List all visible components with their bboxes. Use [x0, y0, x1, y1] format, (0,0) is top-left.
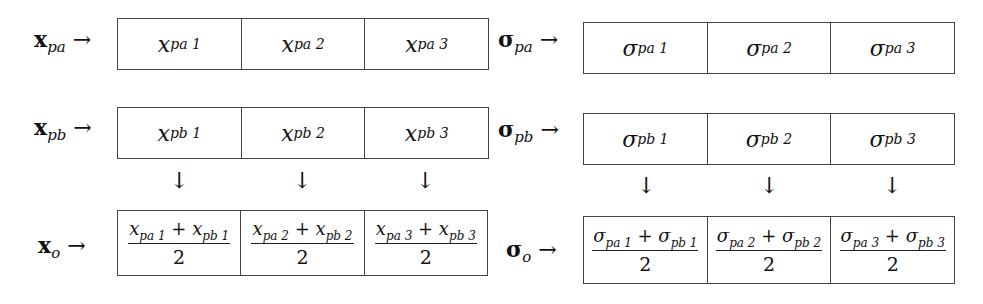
down-arrow-icon: ↓: [637, 173, 655, 198]
cell-x-pb-2: xpb 2: [242, 108, 366, 158]
cell-sigma-pb-2: σpb 2: [708, 114, 832, 164]
cell-sigma-o-3: σpa 3 + σpb 32: [831, 217, 954, 283]
down-arrow-icon: ↓: [883, 173, 901, 198]
down-arrow-icon: ↓: [760, 173, 778, 198]
cell-x-o-2: xpa 2 + xpb 22: [241, 211, 364, 275]
cell-sigma-pa-3: σpa 3: [831, 23, 954, 73]
down-arrow-icon: ↓: [170, 168, 188, 193]
cell-x-pb-1: xpb 1: [118, 108, 242, 158]
cell-sigma-pa-1: σpa 1: [584, 23, 708, 73]
cell-x-o-3: xpa 3 + xpb 32: [365, 211, 487, 275]
label-sigma-pa: σpa →: [498, 26, 558, 56]
cell-sigma-o-1: σpa 1 + σpb 12: [584, 217, 708, 283]
cell-x-o-1: xpa 1 + xpb 12: [118, 211, 241, 275]
cell-x-pa-1: xpa 1: [118, 19, 242, 69]
label-x-o: xo →: [38, 232, 86, 262]
row-sigma-o: σpa 1 + σpb 12 σpa 2 + σpb 22 σpa 3 + σp…: [583, 216, 955, 284]
down-arrow-icon: ↓: [416, 168, 434, 193]
label-sigma-o: σo →: [506, 236, 557, 266]
cell-sigma-pb-3: σpb 3: [831, 114, 954, 164]
row-sigma-pa: σpa 1 σpa 2 σpa 3: [583, 22, 955, 74]
row-x-o: xpa 1 + xpb 12 xpa 2 + xpb 22 xpa 3 + xp…: [117, 210, 488, 276]
row-x-pa: xpa 1 xpa 2 xpa 3: [117, 18, 489, 70]
down-arrow-icon: ↓: [293, 168, 311, 193]
cell-sigma-o-2: σpa 2 + σpb 22: [708, 217, 832, 283]
cell-x-pa-2: xpa 2: [242, 19, 366, 69]
cell-sigma-pb-1: σpb 1: [584, 114, 708, 164]
row-sigma-pb: σpb 1 σpb 2 σpb 3: [583, 113, 955, 165]
cell-x-pb-3: xpb 3: [365, 108, 488, 158]
label-x-pa: xpa →: [34, 26, 91, 56]
label-x-pb: xpb →: [34, 114, 92, 144]
label-sigma-pb: σpb →: [498, 116, 559, 146]
row-x-pb: xpb 1 xpb 2 xpb 3: [117, 107, 489, 159]
cell-sigma-pa-2: σpa 2: [708, 23, 832, 73]
cell-x-pa-3: xpa 3: [365, 19, 488, 69]
